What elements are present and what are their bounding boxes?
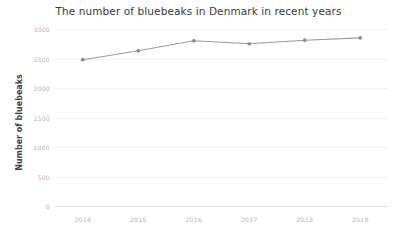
- y-tick-label: 0: [10, 203, 50, 210]
- data-point-marker: [303, 39, 306, 42]
- y-tick-label: 3000: [10, 26, 50, 33]
- x-tick-label: 2019: [338, 216, 382, 223]
- y-tick-label: 500: [10, 173, 50, 180]
- y-tick-label: 1500: [10, 114, 50, 121]
- x-tick-label: 2017: [227, 216, 271, 223]
- x-tick-label: 2018: [283, 216, 327, 223]
- data-point-marker: [248, 42, 251, 45]
- x-tick-label: 2016: [172, 216, 216, 223]
- y-tick-label: 2000: [10, 85, 50, 92]
- chart-screenshot: The number of bluebeaks in Denmark in re…: [0, 0, 397, 237]
- data-point-marker: [359, 36, 362, 39]
- x-tick-label: 2015: [116, 216, 160, 223]
- chart-title: The number of bluebeaks in Denmark in re…: [0, 5, 397, 17]
- series-line-path: [83, 38, 361, 60]
- plot-area: [55, 29, 388, 206]
- y-axis-tick-labels: 300025002000150010005000: [8, 29, 50, 206]
- line-series: [55, 29, 388, 206]
- y-tick-label: 2500: [10, 55, 50, 62]
- data-point-marker: [81, 58, 84, 61]
- x-tick-label: 2014: [61, 216, 105, 223]
- data-point-marker: [137, 49, 140, 52]
- y-tick-label: 1000: [10, 144, 50, 151]
- x-axis-tick-labels: 201420152016201720182019: [55, 206, 388, 232]
- data-point-marker: [192, 39, 195, 42]
